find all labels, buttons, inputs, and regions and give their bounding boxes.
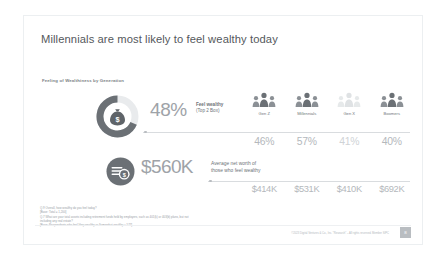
overall-feel-wealthy-value: 48% <box>150 99 187 121</box>
divider-row2 <box>208 181 410 182</box>
generation-percent-value: 40% <box>371 136 414 150</box>
chart-subtitle: Feeling of Wealthiness by Generation <box>42 78 124 83</box>
page-number-badge: 8 <box>400 227 411 238</box>
people-group-icon <box>294 92 320 108</box>
footer-divider <box>35 225 411 226</box>
row2-bullet-dot <box>209 180 212 183</box>
generation-column-gen-z: Gen Z <box>243 92 286 125</box>
generation-percent-value: 41% <box>328 136 371 150</box>
generation-percent-value: 46% <box>243 136 286 150</box>
people-group-icon <box>336 92 362 108</box>
generation-networth-value: $414K <box>243 184 286 198</box>
generation-label: Boomers <box>384 111 400 116</box>
generation-column-boomers: Boomers <box>371 92 414 125</box>
money-bag-icon: $ <box>109 108 126 126</box>
generation-networth-value: $410K <box>328 184 371 198</box>
generation-networth-row: $414K$531K$410K$692K <box>243 184 413 198</box>
overall-net-worth-value: $560K <box>141 156 193 178</box>
page-title: Millennials are most likely to feel weal… <box>41 33 278 45</box>
generation-column-millennials: Millennials <box>286 92 329 125</box>
net-worth-label-top: Average net worth of <box>211 161 256 166</box>
generation-label: Gen X <box>343 111 355 116</box>
divider-row1 <box>143 132 410 133</box>
generation-networth-value: $692K <box>371 184 414 198</box>
generation-column-gen-x: Gen X <box>328 92 371 125</box>
net-worth-label-bottom: those who feel wealthy <box>211 168 260 173</box>
generation-label: Millennials <box>297 111 316 116</box>
coins-circle-icon: $ <box>106 157 135 186</box>
slide-canvas: Millennials are most likely to feel weal… <box>23 15 423 245</box>
overall-feel-wealthy-label: Feel wealthy (Top 2 Box) <box>196 102 223 115</box>
row1-bullet-dot <box>144 131 147 134</box>
generation-icon-row: Gen ZMillennialsGen XBoomers <box>243 92 413 125</box>
people-group-icon <box>379 92 405 108</box>
generation-label: Gen Z <box>259 111 270 116</box>
feel-wealthy-label-bottom: (Top 2 Box) <box>196 108 220 113</box>
copyright-text: ©2023 Digital Ventures & Co., Inc. "Rese… <box>291 232 389 235</box>
generation-percent-row: 46%57%41%40% <box>243 136 413 150</box>
generation-networth-value: $531K <box>286 184 329 198</box>
overall-net-worth-label: Average net worth of those who feel weal… <box>211 161 260 174</box>
generation-percent-value: 57% <box>286 136 329 150</box>
people-group-icon <box>251 92 277 108</box>
svg-text:$: $ <box>115 115 119 124</box>
